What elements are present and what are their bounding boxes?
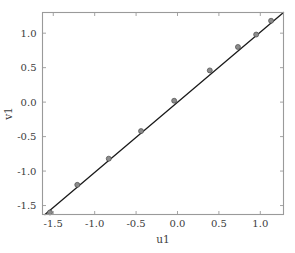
data-point-marker <box>172 98 177 103</box>
figure-canvas: -1.5-1.0-0.50.00.51.0 -1.5-1.0-0.50.00.5… <box>0 0 295 253</box>
data-point-marker <box>139 129 144 134</box>
x-tick-label: 0.5 <box>211 218 227 229</box>
data-point-marker <box>254 32 259 37</box>
x-tick-label: 0.0 <box>170 218 186 229</box>
x-tick-label: -0.5 <box>126 218 145 229</box>
data-point-marker <box>207 68 212 73</box>
x-axis-title: u1 <box>156 233 169 245</box>
scatter-plot: -1.5-1.0-0.50.00.51.0 -1.5-1.0-0.50.00.5… <box>0 0 295 253</box>
x-tick-label: -1.0 <box>85 218 104 229</box>
data-point-marker <box>106 156 111 161</box>
y-tick-label: -1.5 <box>17 200 36 211</box>
y-tick-label: -0.5 <box>17 131 36 142</box>
data-point-marker <box>269 18 274 23</box>
data-point-marker <box>235 44 240 49</box>
y-tick-label: 0.0 <box>21 97 37 108</box>
y-tick-label: -1.0 <box>17 166 36 177</box>
y-axis-title: v1 <box>2 107 14 121</box>
y-tick-label: 1.0 <box>21 28 37 39</box>
y-tick-label: 0.5 <box>21 62 37 73</box>
x-tick-label: -1.5 <box>44 218 63 229</box>
data-point-marker <box>75 182 80 187</box>
x-tick-label: 1.0 <box>252 218 268 229</box>
